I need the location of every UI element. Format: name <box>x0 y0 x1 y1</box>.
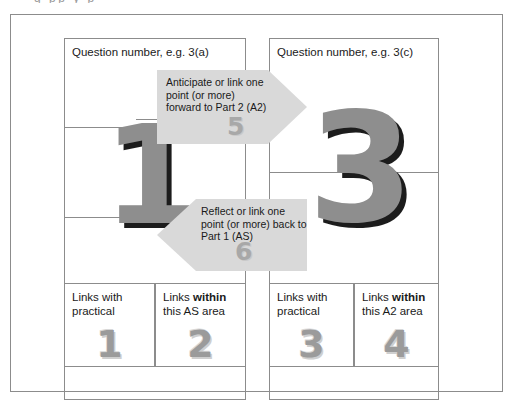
arrow-back-number: 6 <box>235 239 252 265</box>
cell-4-line1-pre: Links <box>362 291 392 303</box>
cell-1-line2: practical <box>72 305 115 317</box>
cell-2-line2: this AS area <box>163 305 225 317</box>
cell-3-line1: Links with <box>277 291 328 303</box>
panel-as-title: Question number, e.g. 3(a) <box>72 46 209 58</box>
arrow-forward-text: Anticipate or link one point (or more) f… <box>166 76 270 114</box>
cell-2-line1-bold: within <box>193 291 226 303</box>
diagram-outer-frame: Question number, e.g. 3(a) Question numb… <box>10 14 503 392</box>
panel-a2-title: Question number, e.g. 3(c) <box>277 46 413 58</box>
cell-2-label: Links within this AS area <box>163 290 247 318</box>
cell-4-label: Links within this A2 area <box>362 290 446 318</box>
cell-3-line2: practical <box>277 305 320 317</box>
cell-2-line1-pre: Links <box>163 291 193 303</box>
arrow-forward-number: 5 <box>227 114 244 140</box>
cell-4-number: 4 <box>355 324 438 364</box>
cell-3-label: Links with practical <box>277 290 361 318</box>
cell-1-number: 1 <box>65 324 154 364</box>
cell-links-with-practical-as: Links with practical 1 <box>64 283 155 367</box>
arrow-back-text: Reflect or link one point (or more) back… <box>201 205 309 243</box>
cell-links-with-practical-a2: Links with practical 3 <box>269 283 354 367</box>
cell-links-within-a2: Links within this A2 area 4 <box>354 283 439 367</box>
clipped-caption-remnant: g pp y p <box>34 0 334 3</box>
big-numeral-part-3: 3 <box>308 93 414 245</box>
cell-1-label: Links with practical <box>72 290 156 318</box>
cell-3-number: 3 <box>270 324 353 364</box>
cell-links-within-as: Links within this AS area 2 <box>155 283 246 367</box>
cell-4-line1-bold: within <box>392 291 425 303</box>
cell-2-number: 2 <box>156 324 245 364</box>
cell-4-line2: this A2 area <box>362 305 423 317</box>
cell-1-line1: Links with <box>72 291 123 303</box>
